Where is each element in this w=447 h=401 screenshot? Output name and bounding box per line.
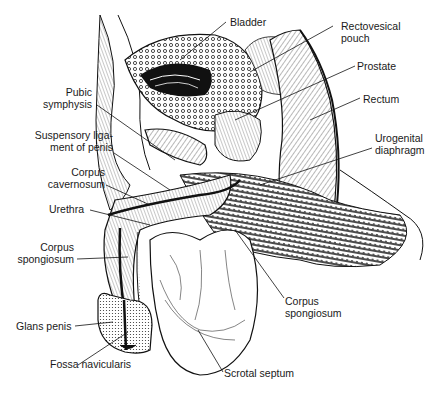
scrotum-shape xyxy=(150,230,258,375)
label-rectum: Rectum xyxy=(363,93,399,105)
pubic-symphysis-shape xyxy=(145,129,207,165)
label-suspensory-ligament: Suspensory liga- ment of penis xyxy=(35,129,113,153)
label-rectovesical-pouch: Rectovesical pouch xyxy=(341,20,401,44)
label-bladder: Bladder xyxy=(230,16,266,28)
label-corpus-spongiosum-left: Corpus spongiosum xyxy=(17,241,74,265)
label-prostate: Prostate xyxy=(357,60,396,72)
anatomy-figure: Bladder Rectovesical pouch Prostate Rect… xyxy=(0,0,447,401)
label-fossa-navicularis: Fossa navicularis xyxy=(50,358,131,370)
label-urogenital-diaphragm: Urogenital diaphragm xyxy=(375,132,425,156)
label-glans-penis: Glans penis xyxy=(16,320,71,332)
label-scrotal-septum: Scrotal septum xyxy=(224,367,294,379)
label-pubic-symphysis: Pubic symphysis xyxy=(43,86,92,110)
label-urethra: Urethra xyxy=(49,203,84,215)
label-corpus-spongiosum-right: Corpus spongiosum xyxy=(285,295,342,319)
label-corpus-cavernosum: Corpus cavernosum xyxy=(48,166,105,190)
